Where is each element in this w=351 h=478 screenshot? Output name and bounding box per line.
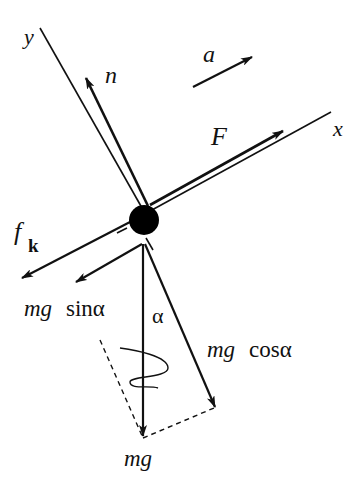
- free-body-diagram: y x n a F f k mg sinα α mg cosα mg: [0, 0, 351, 478]
- gravity-parallel-label-func: sinα: [66, 296, 105, 321]
- dashed-line-left: [100, 340, 143, 438]
- acceleration-arrow: [193, 57, 252, 87]
- y-axis-label: y: [22, 24, 34, 49]
- gravity-parallel-arrow: [76, 244, 142, 282]
- block-particle: [129, 205, 159, 235]
- gravity-perp-label-func: cosα: [249, 337, 292, 362]
- friction-force-label: f: [14, 217, 25, 246]
- normal-force-arrow: [86, 78, 148, 206]
- diagram-canvas: y x n a F f k mg sinα α mg cosα mg: [0, 0, 351, 478]
- acceleration-label: a: [203, 41, 215, 67]
- gravity-label: mg: [124, 446, 152, 471]
- x-axis-label: x: [332, 116, 343, 141]
- x-axis-line: [130, 112, 331, 222]
- dashed-line-bottom: [143, 408, 214, 438]
- friction-force-subscript: k: [28, 235, 39, 256]
- y-axis-line: [40, 28, 146, 215]
- applied-force-label: F: [210, 122, 228, 151]
- gravity-parallel-label-prefix: mg: [24, 296, 52, 321]
- gravity-perp-label-prefix: mg: [207, 337, 235, 362]
- normal-force-label: n: [105, 62, 117, 88]
- angle-label: α: [152, 303, 164, 328]
